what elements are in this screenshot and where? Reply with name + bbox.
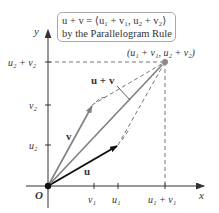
sum-label-leader [117,86,130,100]
vector-u-label: u [84,165,90,177]
y-tick-u2: u₂ [29,140,38,151]
callout-caption: by the Parallelogram Rule [62,27,171,40]
origin-label: O [35,189,43,201]
parallelogram-rule-callout: u + v = ⟨u₁ + v₁, u₂ + v₂⟩ by the Parall… [57,12,176,42]
vector-sum-label: u + v [91,74,115,86]
x-tick-u1-plus-v1: u₁ + v₁ [148,194,176,205]
callout-formula: u + v = ⟨u₁ + v₁, u₂ + v₂⟩ [62,14,171,27]
sum-point-label: (u₁ + v₁, u₂ + v₂) [127,47,196,59]
x-tick-v1: v₁ [88,194,96,205]
sum-point [162,59,168,65]
y-tick-u2-plus-v2: u₂ + v₂ [8,57,37,68]
y-axis-label: y [33,25,39,37]
origin-point [45,183,51,189]
x-tick-u1: u₁ [112,194,120,205]
vector-v-label: v [66,130,72,142]
y-tick-v2: v₂ [29,100,37,111]
x-axis-label: x [198,189,204,201]
